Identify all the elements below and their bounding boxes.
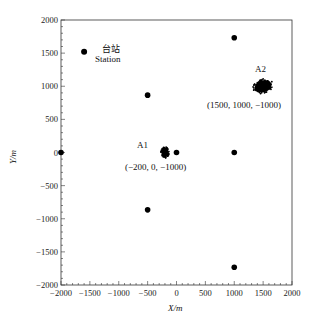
scatter-chart: −2000−1500−1000−5000500100015002000−2000… (0, 0, 316, 321)
cluster-a2-coords: (1500, 1000, −1000) (207, 100, 281, 110)
sensor-point (145, 92, 151, 98)
x-tick-label: 1000 (226, 288, 243, 298)
data-points (58, 35, 273, 270)
cluster-a1-name: A1 (137, 140, 148, 150)
y-axis-label: Y/m (8, 150, 18, 164)
x-tick-label: 2000 (284, 288, 301, 298)
y-tick-label: 0 (54, 148, 58, 158)
y-tick-label: −1500 (36, 247, 58, 257)
sensor-point (145, 207, 151, 213)
y-tick-label: −500 (40, 181, 58, 191)
y-tick-label: 500 (45, 114, 58, 124)
cluster-a2 (253, 78, 273, 94)
y-tick-label: 2000 (41, 15, 58, 25)
x-tick-label: 500 (199, 288, 212, 298)
y-tick-label: −2000 (36, 280, 58, 290)
x-axis-label: X/m (168, 303, 183, 313)
y-tick-label: 1000 (41, 81, 58, 91)
x-tick-label: −1500 (79, 288, 101, 298)
sensor-point (58, 150, 64, 156)
x-tick-label: 0 (174, 288, 178, 298)
x-tick-label: −1000 (108, 288, 130, 298)
sensor-point (231, 264, 237, 270)
x-tick-label: −500 (139, 288, 157, 298)
station-point (81, 49, 87, 55)
sensor-point (174, 150, 180, 156)
cluster-a2-name: A2 (255, 64, 266, 74)
sensor-point (231, 150, 237, 156)
y-tick-label: −1000 (36, 214, 58, 224)
station-label-en: Station (95, 54, 121, 64)
y-tick-label: 1500 (41, 48, 58, 58)
x-tick-label: 1500 (255, 288, 272, 298)
cluster-a1-coords: (−200, 0, −1000) (125, 162, 186, 172)
station-label-cn: 台站 (102, 44, 120, 54)
sensor-point (231, 35, 237, 41)
